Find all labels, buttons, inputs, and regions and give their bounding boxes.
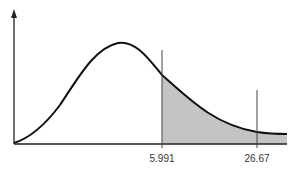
density-curve (14, 43, 287, 143)
chi-square-chart: 5.991 26.67 (0, 0, 295, 172)
critical-value-label: 5.991 (149, 153, 174, 164)
test-statistic-label: 26.67 (244, 153, 269, 164)
y-axis-arrow-icon (11, 9, 17, 18)
